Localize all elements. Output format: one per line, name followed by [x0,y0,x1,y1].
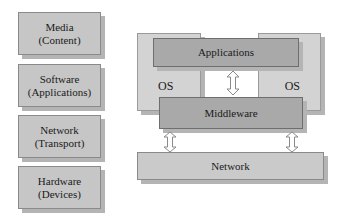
middleware-box: Middleware [159,97,303,129]
os-right-label: OS [285,80,300,94]
double-arrow-vertical-icon [284,131,300,153]
layer-software: Software (Applications) [18,64,101,107]
layer-title: Software [40,73,80,86]
layer-subtitle: (Applications) [28,86,92,99]
network-label: Network [211,160,250,173]
applications-label: Applications [198,46,254,59]
layer-subtitle: (Content) [38,34,80,47]
double-arrow-vertical-icon [162,131,178,153]
layer-network: Network (Transport) [18,115,101,158]
network-bar: Network [137,152,324,180]
layer-title: Network [40,124,79,137]
applications-box: Applications [153,38,299,67]
layer-subtitle: (Transport) [35,137,85,150]
layer-hardware: Hardware (Devices) [18,166,101,209]
layer-title: Media [45,21,73,34]
double-arrow-vertical-icon [225,70,241,96]
os-left-label: OS [158,80,173,94]
layer-title: Hardware [38,175,81,188]
middleware-label: Middleware [204,107,257,120]
layer-subtitle: (Devices) [38,188,81,201]
layer-media: Media (Content) [18,12,101,55]
